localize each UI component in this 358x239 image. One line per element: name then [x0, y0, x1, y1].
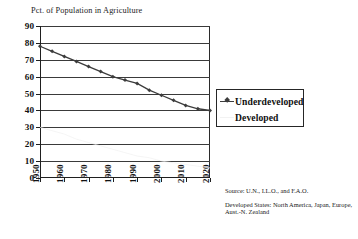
plot-area: 0102030405060708090 19501960197019801990…	[40, 26, 210, 178]
y-tick-label: 50	[25, 89, 34, 99]
series-marker	[38, 44, 42, 48]
series-marker	[74, 59, 78, 63]
chart-title: Pct. of Population in Agriculture	[31, 6, 142, 15]
series-marker	[50, 49, 54, 53]
series-marker	[172, 98, 176, 102]
legend-item-developed: Developed	[219, 109, 300, 125]
chart-legend: Underdeveloped Developed	[216, 89, 304, 127]
legend-item-underdeveloped: Underdeveloped	[219, 93, 300, 109]
y-tick-label: 80	[25, 38, 34, 48]
x-tick-label: 1950	[31, 164, 41, 183]
y-tick-label: 20	[25, 139, 34, 149]
legend-line-faint-icon	[219, 112, 235, 122]
y-tick-label: 40	[25, 105, 34, 115]
series-line-developed	[40, 127, 210, 168]
series-marker	[123, 78, 127, 82]
y-tick-label: 70	[25, 55, 34, 65]
y-tick-label: 90	[25, 21, 34, 31]
note-source: Source: U.N., I.L.O., and F.A.O.	[225, 187, 357, 195]
y-tick-label: 30	[25, 122, 34, 132]
series-marker	[184, 103, 188, 107]
chart-notes: Source: U.N., I.L.O., and F.A.O. Develop…	[225, 187, 357, 216]
series-marker	[111, 75, 115, 79]
chart-figure: Pct. of Population in Agriculture 010203…	[0, 0, 358, 239]
legend-label-developed: Developed	[235, 112, 279, 123]
series-marker	[159, 93, 163, 97]
series-marker	[208, 108, 212, 112]
series-marker	[196, 107, 200, 111]
series-marker	[87, 65, 91, 69]
y-tick-label: 60	[25, 72, 34, 82]
legend-line-marker-icon	[219, 96, 235, 106]
series-marker	[99, 70, 103, 74]
note-developed-states: Developed States: North America, Japan, …	[225, 201, 357, 216]
series-plot	[40, 26, 210, 178]
series-marker	[62, 54, 66, 58]
legend-label-underdeveloped: Underdeveloped	[235, 96, 304, 107]
